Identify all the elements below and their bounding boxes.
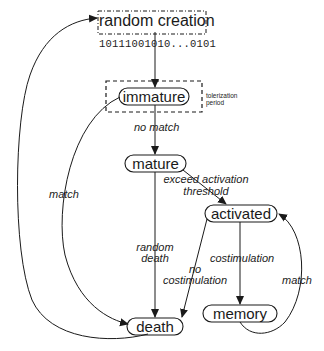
memory-label: memory bbox=[203, 306, 277, 321]
edge-label-exceed-activation-line2: threshold bbox=[160, 186, 252, 197]
edge-label-no-costimulation-line2: costimulation bbox=[160, 275, 230, 286]
edge-label-match-memory: match bbox=[282, 275, 312, 286]
edge-immature-to-death bbox=[62, 97, 128, 324]
edge-death-to-creation bbox=[18, 18, 149, 339]
edge-label-no-match: no match bbox=[134, 122, 179, 133]
immature-label: immature bbox=[119, 89, 189, 104]
edge-label-random-death-line2: death bbox=[133, 253, 177, 264]
bitstring-label: 10111001010...0101 bbox=[99, 39, 207, 50]
mature-label: mature bbox=[125, 156, 186, 171]
tolerization-period-label: tolerization period bbox=[206, 92, 246, 107]
activated-label: activated bbox=[205, 206, 277, 221]
edge-label-match-immature: match bbox=[49, 189, 79, 200]
random-creation-label: random creation bbox=[99, 13, 206, 29]
death-label: death bbox=[127, 319, 183, 334]
edge-label-costimulation: costimulation bbox=[210, 253, 274, 264]
edge-label-exceed-activation-line1: exceed activation bbox=[160, 174, 252, 185]
